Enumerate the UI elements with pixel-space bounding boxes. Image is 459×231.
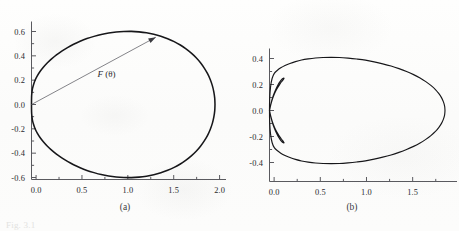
chart-panel-b: -0.4-0.20.00.20.4 0.00.51.01.5: [228, 0, 459, 231]
tick-marks-b: [270, 59, 436, 182]
curve-cardioid-a: [32, 31, 216, 177]
x-tick-label: 0.5: [315, 188, 326, 197]
y-tick-label: 0.0: [252, 107, 263, 116]
x-tick-label: 1.0: [361, 188, 372, 197]
radius-vector-a: [32, 37, 156, 104]
radius-vector-line: [32, 37, 156, 104]
subcaption-a: (a): [105, 202, 145, 212]
y-tick-label: 0.4: [14, 52, 25, 61]
x-tick-label: 0.5: [77, 186, 88, 195]
x-tick-label: 0.0: [31, 186, 42, 195]
radius-vector-arrowhead: [148, 37, 156, 43]
y-tick-label: -0.2: [249, 133, 263, 142]
x-tick-labels-a: 0.00.51.01.52.0: [31, 186, 225, 195]
y-tick-labels-b: -0.4-0.20.00.20.4: [249, 55, 263, 168]
axes-group-a: [32, 22, 227, 180]
chart-panel-a: -0.6-0.4-0.20.00.20.40.6 0.00.51.01.52.0…: [0, 0, 228, 231]
figure-caption-partial: Fig. 3.1: [6, 220, 35, 230]
y-tick-label: -0.4: [249, 159, 263, 168]
y-tick-label: -0.2: [11, 125, 25, 134]
x-tick-label: 1.0: [122, 186, 133, 195]
subcaption-b: (b): [332, 202, 372, 212]
y-tick-label: 0.4: [252, 55, 263, 64]
y-tick-label: 0.6: [14, 28, 25, 37]
x-tick-label: 1.5: [407, 188, 418, 197]
figure-root: -0.6-0.4-0.20.00.20.40.6 0.00.51.01.52.0…: [0, 0, 459, 231]
polar-chart-a: -0.6-0.4-0.20.00.20.40.6 0.00.51.01.52.0…: [0, 0, 228, 231]
x-tick-label: 0.0: [269, 188, 280, 197]
y-tick-label: 0.2: [252, 81, 263, 90]
x-tick-labels-b: 0.00.51.01.5: [269, 188, 418, 197]
radius-vector-label: F (θ): [97, 69, 116, 79]
y-tick-labels-a: -0.6-0.4-0.20.00.20.40.6: [11, 28, 25, 183]
x-tick-label: 1.5: [168, 186, 179, 195]
y-tick-label: 0.2: [14, 76, 25, 85]
y-tick-label: 0.0: [14, 101, 25, 110]
y-tick-label: -0.6: [11, 174, 25, 183]
curve-main-lobe-b: [270, 57, 446, 163]
polar-chart-b: -0.4-0.20.00.20.4 0.00.51.01.5: [228, 0, 459, 231]
y-tick-label: -0.4: [11, 149, 25, 158]
x-tick-label: 2.0: [214, 186, 225, 195]
